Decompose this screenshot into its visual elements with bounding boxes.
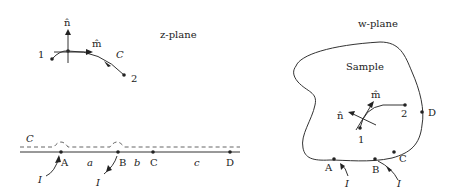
w-point-d-label: D: [428, 107, 436, 118]
current-out-label: I: [95, 177, 101, 188]
w-point-d: [420, 110, 424, 114]
w-point-c-label: C: [399, 153, 407, 164]
w-current-out-arrowhead-icon: [386, 166, 392, 172]
segment-b-label: b: [134, 157, 140, 168]
start-point: [50, 57, 54, 61]
contour-label: C: [26, 133, 34, 144]
w-point-c: [392, 150, 396, 154]
w-current-out-label: I: [396, 178, 402, 189]
wplane-title: w-plane: [358, 18, 398, 29]
w-current-out-line: [378, 161, 398, 180]
point-c: [151, 150, 155, 154]
conformal-map-diagram: z-plane n̂ m̂ C 1 2 C A B C D a b c: [0, 0, 456, 196]
w-normal-vector: [351, 113, 376, 125]
current-in-label: I: [37, 174, 43, 185]
inner-end-label: 2: [401, 108, 407, 119]
segment-a-label: a: [87, 157, 93, 168]
point-b: [116, 150, 120, 154]
normal-label: n̂: [64, 17, 71, 28]
end-label: 2: [131, 73, 137, 84]
dashed-contour: [20, 142, 240, 147]
inner-start-label: 1: [358, 134, 364, 145]
curve-label: C: [116, 49, 124, 60]
zplane-title: z-plane: [160, 29, 197, 40]
w-current-in-arrowhead-icon: [340, 163, 345, 170]
tangent-label: m̂: [92, 38, 102, 49]
current-out-arrowhead-icon: [106, 165, 112, 172]
w-point-b: [373, 157, 377, 161]
point-a: [59, 150, 63, 154]
end-point: [122, 73, 126, 77]
point-c-label: C: [150, 157, 158, 168]
start-label: 1: [38, 49, 44, 60]
w-point-a: [332, 157, 336, 161]
sample-label: Sample: [346, 61, 384, 72]
inner-end-point: [403, 103, 407, 107]
w-normal-arrowhead-icon: [348, 111, 355, 116]
inner-start-point: [358, 126, 362, 130]
point-d: [228, 150, 232, 154]
point-d-label: D: [226, 157, 234, 168]
w-tangent-arrowhead-icon: [367, 101, 374, 108]
segment-c-label: c: [194, 157, 200, 168]
point-a-label: A: [60, 157, 69, 168]
w-point-a-label: A: [324, 162, 333, 173]
w-tangent-label: m̂: [371, 89, 381, 100]
wplane-panel: w-plane Sample D C B A 1 2 m̂ n̂ I I: [294, 18, 436, 189]
current-out-line: [104, 156, 117, 174]
curve-c: [52, 51, 124, 75]
w-normal-label: n̂: [337, 110, 344, 121]
w-current-in-label: I: [344, 178, 350, 189]
real-axis-panel: C A B C D a b c I I: [20, 133, 240, 188]
zplane-panel: z-plane n̂ m̂ C 1 2: [38, 17, 197, 84]
w-point-b-label: B: [372, 164, 379, 175]
point-b-label: B: [119, 157, 126, 168]
inner-curve: [360, 105, 405, 128]
normal-arrowhead-icon: [65, 29, 71, 35]
